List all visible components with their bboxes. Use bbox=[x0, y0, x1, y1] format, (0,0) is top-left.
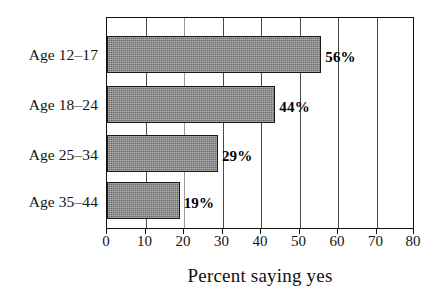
bar-age-12-17 bbox=[107, 36, 321, 73]
value-label-age-18-24: 44% bbox=[279, 100, 310, 115]
category-label-age-18-24: Age 18–24 bbox=[0, 97, 104, 113]
gridline-70 bbox=[377, 18, 378, 228]
tick-label-60: 60 bbox=[317, 234, 357, 249]
plot-area bbox=[106, 17, 414, 229]
category-label-age-25-34: Age 25–34 bbox=[0, 147, 104, 163]
value-label-age-35-44: 19% bbox=[184, 196, 215, 211]
tick-label-20: 20 bbox=[163, 234, 203, 249]
bar-age-35-44 bbox=[107, 182, 180, 219]
tick-label-50: 50 bbox=[279, 234, 319, 249]
value-label-age-25-34: 29% bbox=[222, 149, 253, 164]
category-label-age-12-17: Age 12–17 bbox=[0, 47, 104, 63]
value-label-age-12-17: 56% bbox=[325, 50, 356, 65]
tick-label-80: 80 bbox=[393, 234, 433, 249]
tick-label-40: 40 bbox=[240, 234, 280, 249]
bar-age-18-24 bbox=[107, 86, 275, 123]
tick-label-30: 30 bbox=[202, 234, 242, 249]
category-label-age-35-44: Age 35–44 bbox=[0, 194, 104, 210]
x-axis-title: Percent saying yes bbox=[106, 266, 414, 285]
tick-label-10: 10 bbox=[125, 234, 165, 249]
tick-label-0: 0 bbox=[86, 234, 126, 249]
bar-chart: Age 12–17 Age 18–24 Age 25–34 Age 35–44 … bbox=[0, 0, 434, 301]
plot-inner bbox=[107, 18, 413, 228]
tick-label-70: 70 bbox=[356, 234, 396, 249]
bar-age-25-34 bbox=[107, 135, 218, 172]
